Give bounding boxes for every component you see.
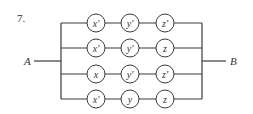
- switch-label: z': [161, 18, 169, 29]
- problem-number: 7.: [17, 12, 26, 24]
- terminal-a-label: A: [23, 55, 31, 67]
- switch-label: z: [162, 43, 167, 54]
- switching-circuit-diagram: 7. A B x' y' z' x' y' z x y' z': [0, 0, 253, 114]
- branch-row-2: x' y' z: [61, 39, 202, 57]
- switch-label: y': [126, 18, 134, 29]
- switch-label: x': [92, 43, 100, 54]
- switch-label: y': [126, 69, 134, 80]
- terminal-b-label: B: [230, 55, 237, 67]
- switch-label: y': [126, 43, 134, 54]
- switch-label: z: [162, 94, 167, 105]
- switch-label: x': [92, 94, 100, 105]
- branch-row-3: x y' z': [61, 65, 202, 83]
- switch-label: x: [93, 69, 99, 80]
- branch-row-1: x' y' z': [61, 14, 202, 32]
- switch-label: z': [161, 69, 169, 80]
- switch-label: x': [92, 18, 100, 29]
- branch-row-4: x' y z: [61, 90, 202, 108]
- switch-label: y: [127, 94, 133, 105]
